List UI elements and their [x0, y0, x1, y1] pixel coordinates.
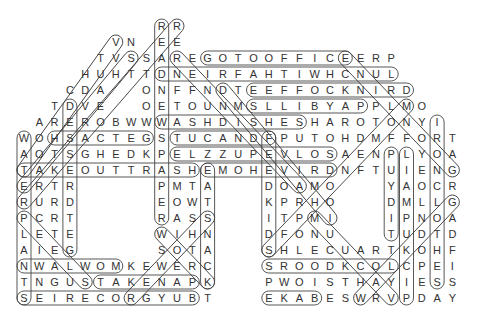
grid-letter[interactable]: R — [155, 211, 169, 225]
grid-letter[interactable]: O — [415, 99, 429, 113]
grid-letter[interactable]: M — [400, 195, 414, 209]
grid-letter[interactable]: R — [430, 131, 444, 145]
grid-letter[interactable]: F — [400, 131, 414, 145]
grid-letter[interactable]: L — [185, 147, 199, 161]
grid-letter[interactable]: O — [247, 51, 261, 65]
grid-letter[interactable]: U — [170, 291, 184, 305]
grid-letter[interactable]: E — [63, 163, 77, 177]
grid-letter[interactable]: A — [338, 99, 352, 113]
grid-letter[interactable]: E — [201, 163, 215, 177]
grid-letter[interactable]: P — [384, 51, 398, 65]
grid-letter[interactable]: B — [109, 115, 123, 129]
grid-letter[interactable]: Y — [155, 291, 169, 305]
grid-letter[interactable]: P — [155, 147, 169, 161]
grid-letter[interactable]: A — [48, 259, 62, 273]
grid-letter[interactable]: E — [17, 179, 31, 193]
grid-letter[interactable]: V — [384, 291, 398, 305]
grid-letter[interactable]: H — [262, 67, 276, 81]
grid-letter[interactable]: N — [369, 147, 383, 161]
grid-letter[interactable]: O — [354, 115, 368, 129]
grid-letter[interactable]: O — [323, 131, 337, 145]
grid-letter[interactable]: G — [63, 243, 77, 257]
grid-letter[interactable]: R — [78, 115, 92, 129]
grid-letter[interactable]: E — [170, 35, 184, 49]
grid-letter[interactable]: H — [262, 115, 276, 129]
grid-letter[interactable]: U — [323, 227, 337, 241]
grid-letter[interactable]: G — [139, 291, 153, 305]
grid-letter[interactable]: E — [94, 99, 108, 113]
grid-letter[interactable]: E — [63, 227, 77, 241]
grid-letter[interactable]: R — [48, 211, 62, 225]
grid-letter[interactable]: T — [124, 163, 138, 177]
grid-letter[interactable]: P — [354, 99, 368, 113]
grid-letter[interactable]: L — [384, 67, 398, 81]
grid-letter[interactable]: D — [262, 227, 276, 241]
grid-letter[interactable]: S — [445, 275, 459, 289]
grid-letter[interactable]: A — [94, 83, 108, 97]
grid-letter[interactable]: O — [292, 227, 306, 241]
grid-letter[interactable]: O — [323, 195, 337, 209]
grid-letter[interactable]: A — [445, 211, 459, 225]
grid-letter[interactable]: G — [78, 147, 92, 161]
grid-letter[interactable]: R — [445, 179, 459, 193]
grid-letter[interactable]: A — [292, 291, 306, 305]
grid-letter[interactable]: O — [32, 131, 46, 145]
grid-letter[interactable]: R — [32, 179, 46, 193]
grid-letter[interactable]: R — [170, 19, 184, 33]
grid-letter[interactable]: R — [63, 179, 77, 193]
grid-letter[interactable]: T — [48, 99, 62, 113]
grid-letter[interactable]: T — [109, 163, 123, 177]
grid-letter[interactable]: H — [78, 67, 92, 81]
grid-letter[interactable]: T — [384, 243, 398, 257]
grid-letter[interactable]: E — [124, 131, 138, 145]
grid-letter[interactable]: T — [63, 211, 77, 225]
grid-letter[interactable]: U — [63, 275, 77, 289]
grid-letter[interactable]: E — [139, 275, 153, 289]
grid-letter[interactable]: E — [155, 35, 169, 49]
grid-letter[interactable]: I — [323, 211, 337, 225]
grid-letter[interactable]: I — [308, 51, 322, 65]
grid-letter[interactable]: F — [185, 83, 199, 97]
grid-letter[interactable]: S — [155, 131, 169, 145]
grid-letter[interactable]: S — [139, 51, 153, 65]
grid-letter[interactable]: T — [94, 51, 108, 65]
grid-letter[interactable]: T — [308, 131, 322, 145]
grid-letter[interactable]: E — [308, 243, 322, 257]
grid-letter[interactable]: E — [247, 83, 261, 97]
grid-letter[interactable]: C — [354, 259, 368, 273]
grid-letter[interactable]: I — [32, 243, 46, 257]
grid-letter[interactable]: O — [139, 83, 153, 97]
grid-letter[interactable]: E — [430, 259, 444, 273]
grid-letter[interactable]: D — [323, 163, 337, 177]
grid-letter[interactable]: N — [430, 163, 444, 177]
grid-letter[interactable]: O — [384, 115, 398, 129]
grid-letter[interactable]: S — [262, 243, 276, 257]
grid-letter[interactable]: E — [277, 115, 291, 129]
grid-letter[interactable]: I — [369, 83, 383, 97]
grid-letter[interactable]: T — [277, 211, 291, 225]
grid-letter[interactable]: G — [48, 275, 62, 289]
grid-letter[interactable]: C — [94, 131, 108, 145]
grid-letter[interactable]: O — [139, 99, 153, 113]
grid-letter[interactable]: S — [430, 275, 444, 289]
grid-letter[interactable]: A — [292, 179, 306, 193]
grid-letter[interactable]: W — [354, 291, 368, 305]
grid-letter[interactable]: P — [277, 195, 291, 209]
grid-letter[interactable]: P — [155, 179, 169, 193]
grid-letter[interactable]: S — [63, 147, 77, 161]
grid-letter[interactable]: O — [170, 243, 184, 257]
grid-letter[interactable]: W — [155, 227, 169, 241]
grid-letter[interactable]: C — [201, 259, 215, 273]
grid-letter[interactable]: A — [78, 131, 92, 145]
grid-letter[interactable]: E — [155, 195, 169, 209]
grid-letter[interactable]: Y — [323, 99, 337, 113]
grid-letter[interactable]: N — [400, 115, 414, 129]
grid-letter[interactable]: N — [338, 163, 352, 177]
grid-letter[interactable]: E — [262, 163, 276, 177]
grid-letter[interactable]: A — [201, 243, 215, 257]
grid-letter[interactable]: E — [63, 115, 77, 129]
grid-letter[interactable]: S — [155, 243, 169, 257]
grid-letter[interactable]: I — [262, 211, 276, 225]
grid-letter[interactable]: A — [155, 51, 169, 65]
grid-letter[interactable]: F — [170, 83, 184, 97]
